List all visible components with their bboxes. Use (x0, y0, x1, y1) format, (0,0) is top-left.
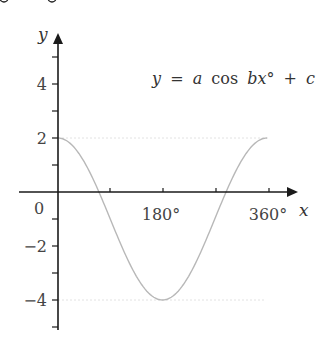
x-axis (19, 187, 298, 197)
x-axis-label: x (299, 200, 309, 220)
origin-label: 0 (34, 199, 44, 218)
x-axis-arrow-icon (287, 187, 298, 197)
x-tick-label-360: 360° (249, 205, 288, 224)
x-tick-label-180: 180° (142, 205, 181, 224)
y-axis (52, 33, 63, 330)
top-text-fragment (0, 0, 56, 2)
chart-canvas: y x 0 4 2 −2 −4 180° 360° y = a cos bx° … (0, 0, 324, 355)
y-tick-label-neg2: −2 (23, 237, 47, 256)
y-tick-label-2: 2 (37, 129, 47, 148)
y-tick-label-neg4: −4 (23, 291, 47, 310)
y-tick-label-4: 4 (37, 75, 47, 94)
y-axis-label: y (37, 24, 48, 44)
y-axis-arrow-icon (53, 33, 63, 44)
equation-label: y = a cos bx° + c (151, 69, 315, 88)
